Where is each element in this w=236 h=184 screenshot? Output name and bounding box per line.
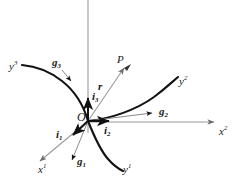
unit-vector-label-i1: i1 — [56, 129, 62, 140]
base-vector-label-g1: g1 — [77, 156, 86, 167]
curve-label-y1: y1 — [123, 164, 131, 175]
axis-label-x2: x2 — [219, 126, 227, 137]
figure-canvas: O P x2 x1 y3 y2 y1 i3 i1 i2 g3 g2 g1 r — [0, 0, 236, 184]
curve-label-y2: y2 — [179, 76, 187, 87]
unit-vector-label-i2: i2 — [104, 125, 110, 136]
base-vector-g3 — [62, 70, 71, 81]
point-p-label: P — [117, 54, 124, 65]
position-vector-label-r: r — [98, 81, 102, 92]
point-p-marker — [124, 64, 131, 71]
axis-label-x1: x1 — [38, 164, 46, 175]
origin-label: O — [77, 111, 86, 123]
unit-vector-label-i3: i3 — [92, 91, 98, 102]
curve-label-y3: y3 — [9, 61, 17, 72]
diagram-vector-graphics — [0, 0, 236, 184]
base-vector-label-g3: g3 — [52, 57, 61, 68]
base-vector-label-g2: g2 — [159, 106, 168, 117]
